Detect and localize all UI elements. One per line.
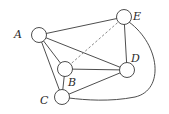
edge-b-e-dashed — [65, 17, 124, 69]
node-e — [117, 10, 132, 25]
node-b — [58, 62, 73, 77]
label-a: A — [13, 28, 22, 41]
label-b: B — [67, 76, 76, 89]
edge-e-d — [124, 17, 127, 70]
label-d: D — [130, 52, 140, 65]
label-e: E — [132, 10, 141, 23]
edge-b-d — [65, 69, 127, 70]
graph-diagram: A E B D C — [0, 0, 169, 114]
edge-a-e — [39, 17, 124, 35]
node-c — [55, 90, 70, 105]
label-c: C — [40, 94, 49, 107]
node-a — [32, 28, 47, 43]
